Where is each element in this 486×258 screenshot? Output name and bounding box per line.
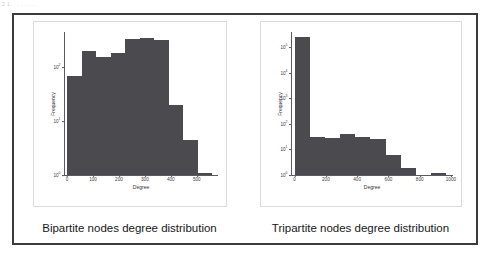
y-tick-bipartite-0: 100 [53,172,60,178]
x-tick-bipartite-4: 400 [167,178,175,183]
histogram-bar [310,137,325,175]
x-tick-tripartite-0: 0 [293,178,296,183]
histogram-bar [386,155,401,175]
histogram-bars-bipartite [65,32,218,175]
y-tick-tripartite-1: 101 [280,146,287,152]
histogram-bar [140,38,155,175]
figure-column-left: Frequency Degree 10010110201002003004005… [14,15,245,243]
histogram-bar [431,173,446,175]
y-tick-tripartite-4: 104 [280,70,287,76]
plot-card-tripartite: Frequency Degree 10010110210310410502004… [260,21,462,207]
y-tick-bipartite-2: 102 [53,64,60,70]
x-tick-bipartite-2: 200 [115,178,123,183]
figure-panel: Frequency Degree 10010110201002003004005… [12,13,478,245]
y-tick-tripartite-5: 105 [280,44,287,50]
histogram-bar [325,138,340,175]
histogram-bar [340,134,355,175]
histogram-bar [355,137,370,175]
page-top-text-fragment: 2.1. . . . . . . . [2,0,302,8]
histogram-bar [82,51,97,175]
x-tick-tripartite-1: 200 [322,178,330,183]
y-tick-tripartite-3: 103 [280,95,287,101]
histogram-bar [169,105,184,175]
plot-axes-bipartite: Frequency Degree 10010110201002003004005… [64,32,218,176]
x-axis-label-tripartite: Degree [292,185,453,190]
y-tick-tripartite-2: 102 [280,121,287,127]
histogram-bar [295,37,310,175]
caption-bipartite: Bipartite nodes degree distribution [14,222,245,235]
x-axis-label-bipartite: Degree [65,185,218,190]
x-tick-bipartite-3: 300 [141,178,149,183]
histogram-bar [154,40,169,175]
x-tick-bipartite-1: 100 [89,178,97,183]
x-tick-tripartite-2: 400 [353,178,361,183]
y-tick-tripartite-0: 100 [280,172,287,178]
histogram-bar [370,139,385,175]
histogram-bar [401,168,416,175]
figure-panel-inner: Frequency Degree 10010110201002003004005… [14,15,476,243]
x-tick-bipartite-5: 500 [193,178,201,183]
histogram-bar [125,39,140,175]
plot-card-bipartite: Frequency Degree 10010110201002003004005… [33,21,227,207]
x-tick-bipartite-0: 0 [66,178,69,183]
x-tick-tripartite-5: 1000 [446,178,456,183]
histogram-bar [96,57,111,175]
y-tick-bipartite-1: 101 [53,118,60,124]
histogram-bar [198,173,213,175]
plot-axes-tripartite: Frequency Degree 10010110210310410502004… [291,32,453,176]
caption-tripartite: Tripartite nodes degree distribution [245,222,476,235]
x-tick-tripartite-4: 800 [416,178,424,183]
histogram-bar [111,53,126,175]
x-tick-tripartite-3: 600 [385,178,393,183]
histogram-bar [183,140,198,175]
y-axis-label-bipartite: Frequency [51,92,56,116]
figure-column-right: Frequency Degree 10010110210310410502004… [245,15,476,243]
histogram-bars-tripartite [292,32,453,175]
histogram-bar [67,76,82,175]
